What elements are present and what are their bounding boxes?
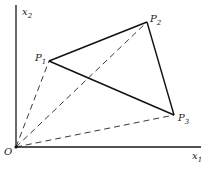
vector-o-p3: [16, 115, 174, 147]
vector-o-p1: [16, 61, 49, 147]
edge-p1-p2: [49, 22, 147, 61]
x-axis-label: x1: [192, 150, 202, 164]
y-axis-label: x2: [22, 6, 33, 20]
point-label-p2: P2: [149, 13, 162, 27]
origin-point: [14, 145, 17, 148]
point-label-p1: P1: [34, 52, 46, 66]
origin-label: O: [4, 146, 12, 157]
coordinate-diagram: x2 x1 O P1 P2 P3: [0, 0, 212, 171]
edge-p2-p3: [147, 22, 174, 115]
point-label-p3: P3: [177, 112, 190, 126]
edge-p3-p1: [49, 61, 174, 115]
vector-o-p2: [16, 22, 147, 147]
